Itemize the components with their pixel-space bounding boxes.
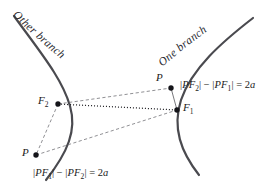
other-branch-label: Other branch	[6, 6, 136, 78]
segment-lower-p-to-f1	[36, 110, 177, 155]
focus-f2-subscript: 2	[45, 100, 49, 109]
eq-top-term2: PF	[215, 79, 228, 90]
focus-f1-letter: F	[183, 101, 190, 113]
focus-f2-label: F2	[38, 95, 48, 109]
eq-bottom-bar-1-close: |	[52, 167, 54, 178]
focus-f1-label: F1	[183, 102, 193, 116]
focus-f1-point	[174, 107, 179, 112]
eq-bottom-term1: PF	[35, 167, 48, 178]
segment-f2-to-lower-p	[36, 104, 58, 155]
eq-top-rhs-var: a	[250, 79, 255, 90]
upper-p-label: P	[156, 72, 163, 83]
other-branch-label-text: Other branch	[11, 8, 68, 61]
focus-f2-point	[55, 101, 60, 106]
equation-top: |PF2|−|PF1|=2a	[180, 80, 255, 93]
focus-f1-subscript: 1	[190, 107, 194, 116]
hyperbola-diagram: Other branch One branch P P F2 F1 |PF2|−…	[0, 0, 272, 196]
eq-top-term1: PF	[182, 79, 195, 90]
upper-p-point	[168, 85, 173, 90]
eq-bottom-rhs-var: a	[103, 167, 108, 178]
eq-bottom-minus: −	[57, 167, 63, 178]
eq-bottom-term2: PF	[68, 167, 81, 178]
focus-f2-letter: F	[38, 94, 45, 106]
lower-p-label: P	[22, 147, 29, 158]
eq-top-minus: −	[204, 79, 210, 90]
eq-bottom-bar-2-close: |	[84, 167, 86, 178]
eq-top-equals: =	[236, 79, 242, 90]
eq-bottom-equals: =	[89, 167, 95, 178]
focal-axis-dotted-line	[58, 104, 177, 110]
one-branch-label-text: One branch	[156, 23, 209, 68]
one-branch-label: One branch	[155, 8, 270, 76]
equation-bottom: |PF1|−|PF2|=2a	[33, 168, 108, 181]
eq-top-bar-1-close: |	[199, 79, 201, 90]
segment-f2-to-upper-p	[58, 88, 171, 104]
eq-top-bar-2-close: |	[231, 79, 233, 90]
lower-p-point	[33, 152, 38, 157]
segment-upper-p-to-f1	[171, 88, 177, 110]
